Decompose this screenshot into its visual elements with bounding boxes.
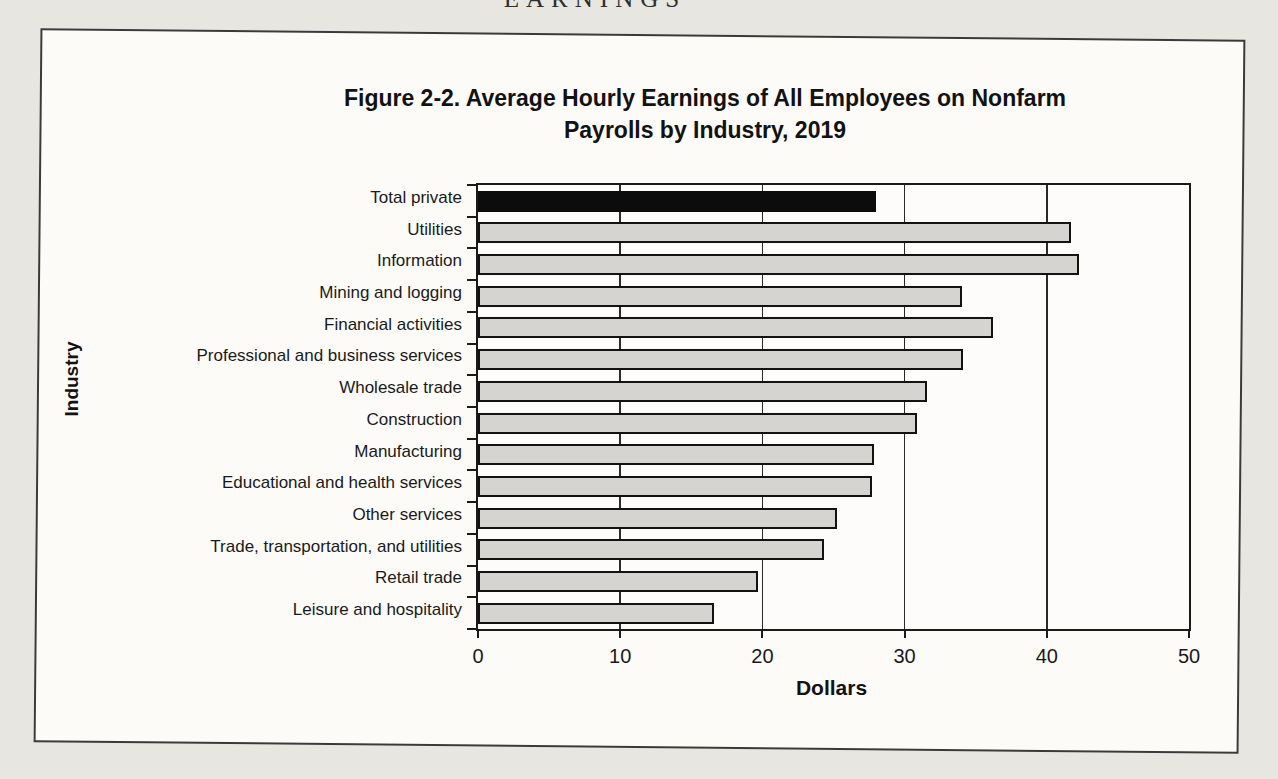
gridline-10 — [619, 185, 621, 629]
x-axis-tick-30 — [904, 629, 906, 638]
x-axis-tick-label-30: 30 — [880, 645, 930, 668]
x-axis-tick-label-0: 0 — [453, 645, 503, 668]
category-label: Mining and logging — [112, 283, 462, 303]
x-axis-tick-label-10: 10 — [595, 645, 645, 668]
x-axis-tick-label-20: 20 — [737, 645, 787, 668]
category-label: Retail trade — [112, 568, 462, 588]
x-axis-tick-10 — [619, 629, 621, 638]
y-axis-tick — [467, 311, 476, 313]
category-label: Wholesale trade — [112, 378, 462, 398]
category-label: Construction — [112, 410, 462, 430]
x-axis-tick-label-50: 50 — [1164, 645, 1214, 668]
y-axis-tick — [467, 501, 476, 503]
bar-other-services — [478, 508, 837, 529]
gridline-20 — [762, 185, 764, 629]
bar-leisure-and-hospitality — [478, 603, 714, 624]
y-axis-tick — [467, 374, 476, 376]
bar-total-private — [478, 191, 876, 212]
category-labels: Total privateUtilitiesInformationMining … — [112, 183, 462, 627]
y-axis-tick — [467, 565, 476, 567]
bar-professional-and-business-services — [478, 349, 963, 370]
bar-trade-transportation-and-utilities — [478, 539, 824, 560]
y-axis-tick — [467, 469, 476, 471]
y-axis-tick — [467, 279, 476, 281]
scanned-page: { "page": { "header_text": "EARNINGS" },… — [0, 0, 1278, 779]
running-header-text: EARNINGS — [0, 0, 1190, 13]
bar-utilities — [478, 222, 1071, 243]
category-label: Leisure and hospitality — [112, 600, 462, 620]
plot-area: 01020304050 — [476, 183, 1191, 631]
x-axis-tick-40 — [1046, 629, 1048, 638]
y-axis-tick — [467, 596, 476, 598]
y-axis-tick — [467, 184, 476, 186]
y-axis-tick — [467, 406, 476, 408]
category-label: Financial activities — [112, 315, 462, 335]
bar-manufacturing — [478, 444, 874, 465]
y-axis-tick — [467, 343, 476, 345]
gridline-40 — [1046, 185, 1048, 629]
bar-construction — [478, 413, 917, 434]
bar-wholesale-trade — [478, 381, 927, 402]
bar-financial-activities — [478, 317, 993, 338]
x-axis-tick-0 — [477, 629, 479, 638]
gridline-30 — [904, 185, 906, 629]
x-axis-tick-50 — [1188, 629, 1190, 638]
category-label: Total private — [112, 188, 462, 208]
y-axis-label: Industry — [61, 279, 83, 479]
chart-title-line1: Figure 2-2. Average Hourly Earnings of A… — [205, 82, 1205, 114]
chart-title-line2: Payrolls by Industry, 2019 — [205, 114, 1205, 146]
x-axis-tick-20 — [761, 629, 763, 638]
category-label: Professional and business services — [112, 346, 462, 366]
x-axis-tick-label-40: 40 — [1022, 645, 1072, 668]
y-axis-tick — [467, 216, 476, 218]
bar-educational-and-health-services — [478, 476, 872, 497]
bar-retail-trade — [478, 571, 758, 592]
category-label: Manufacturing — [112, 442, 462, 462]
category-label: Educational and health services — [112, 473, 462, 493]
category-label: Other services — [112, 505, 462, 525]
category-label: Information — [112, 251, 462, 271]
y-axis-tick — [467, 628, 476, 630]
chart-title: Figure 2-2. Average Hourly Earnings of A… — [205, 82, 1205, 146]
category-label: Utilities — [112, 220, 462, 240]
x-axis-label: Dollars — [476, 676, 1187, 700]
y-axis-tick — [467, 533, 476, 535]
bar-mining-and-logging — [478, 286, 962, 307]
category-label: Trade, transportation, and utilities — [112, 537, 462, 557]
y-axis-tick — [467, 247, 476, 249]
y-axis-tick — [467, 438, 476, 440]
bar-information — [478, 254, 1079, 275]
